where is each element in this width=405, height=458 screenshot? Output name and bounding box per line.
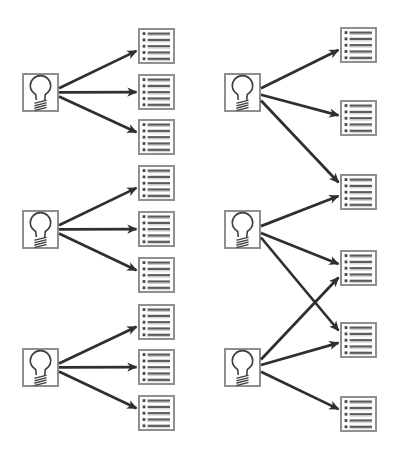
bulleted-list-icon [139,29,174,63]
bulleted-list-icon [139,350,174,384]
diagram [0,0,405,458]
lightbulb-icon [225,211,260,248]
bulleted-list-icon [139,305,174,339]
bulleted-list-icon [341,397,376,431]
bulleted-list-icon [341,323,376,357]
arrow-connector [59,51,137,88]
bulleted-list-icon [341,28,376,62]
diagram-canvas [0,0,405,458]
lightbulb-icon [23,74,58,111]
bulleted-list-icon [139,212,174,246]
bulleted-list-icon [341,101,376,135]
arrow-connector [59,97,137,133]
arrow-connector [59,188,137,225]
bulleted-list-icon [341,175,376,209]
bulleted-list-icon [139,166,174,200]
bulleted-list-icon [139,120,174,154]
lightbulb-icon [23,349,58,386]
lightbulb-icon [225,349,260,386]
bulleted-list-icon [139,396,174,430]
lightbulb-icon [225,74,260,111]
arrow-connector [59,234,137,271]
bulleted-list-icon [341,251,376,285]
arrow-connector [59,372,137,409]
arrow-connector [261,196,339,226]
arrow-connector [261,50,339,88]
arrow-connector [261,372,339,409]
arrow-connector [59,327,137,364]
lightbulb-icon [23,211,58,248]
bulleted-list-icon [139,258,174,292]
arrow-connector [261,233,339,264]
bulleted-list-icon [139,75,174,109]
